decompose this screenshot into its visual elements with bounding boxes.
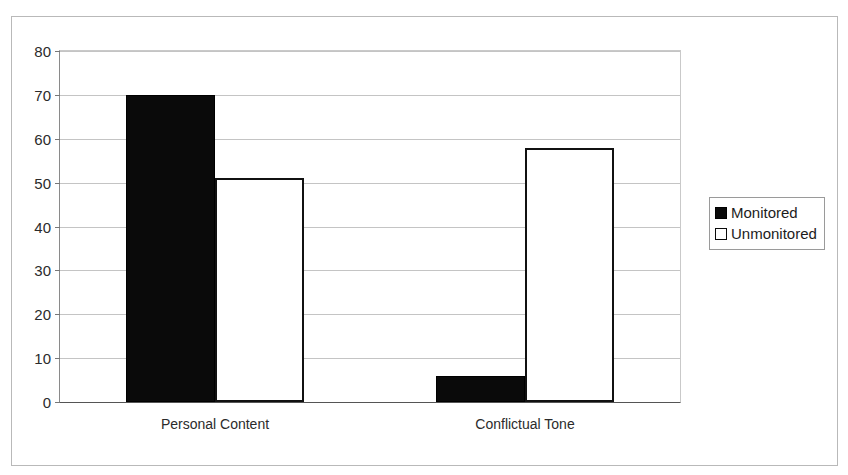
chart-legend: MonitoredUnmonitored bbox=[709, 197, 825, 250]
legend-item-unmonitored: Unmonitored bbox=[715, 223, 817, 244]
y-axis-tick-mark-20 bbox=[55, 314, 60, 315]
y-axis-tick-mark-70 bbox=[55, 95, 60, 96]
y-axis-tick-label-0: 0 bbox=[43, 395, 51, 410]
chart-title-cropped bbox=[0, 0, 848, 15]
gridline-80 bbox=[60, 51, 680, 52]
legend-label-1: Unmonitored bbox=[731, 226, 817, 241]
y-axis-tick-mark-80 bbox=[55, 51, 60, 52]
plot-area: 01020304050607080Personal ContentConflic… bbox=[59, 50, 681, 403]
y-axis-tick-mark-10 bbox=[55, 358, 60, 359]
y-axis-tick-label-70: 70 bbox=[34, 87, 51, 102]
bar-unmonitored-conflictual-tone bbox=[525, 148, 614, 402]
y-axis-tick-label-20: 20 bbox=[34, 307, 51, 322]
bar-monitored-personal-content bbox=[126, 95, 215, 402]
legend-swatch-hollow-icon bbox=[715, 228, 727, 240]
y-axis-tick-mark-0 bbox=[55, 402, 60, 403]
gridline-0 bbox=[60, 402, 680, 403]
y-axis-tick-label-10: 10 bbox=[34, 351, 51, 366]
y-axis-tick-label-80: 80 bbox=[34, 44, 51, 59]
y-axis-tick-mark-60 bbox=[55, 139, 60, 140]
x-axis-category-label-1: Conflictual Tone bbox=[475, 416, 574, 432]
legend-item-monitored: Monitored bbox=[715, 202, 817, 223]
y-axis-tick-label-40: 40 bbox=[34, 219, 51, 234]
bar-monitored-conflictual-tone bbox=[436, 376, 525, 402]
figure-frame: 01020304050607080Personal ContentConflic… bbox=[11, 16, 838, 466]
legend-swatch-filled-icon bbox=[715, 207, 727, 219]
bar-unmonitored-personal-content bbox=[215, 178, 304, 402]
y-axis-tick-label-60: 60 bbox=[34, 131, 51, 146]
chart-canvas: 01020304050607080Personal ContentConflic… bbox=[12, 17, 839, 467]
legend-label-0: Monitored bbox=[731, 205, 798, 220]
y-axis-tick-label-50: 50 bbox=[34, 175, 51, 190]
y-axis-tick-mark-40 bbox=[55, 227, 60, 228]
y-axis-tick-label-30: 30 bbox=[34, 263, 51, 278]
y-axis-tick-mark-30 bbox=[55, 270, 60, 271]
y-axis-tick-mark-50 bbox=[55, 183, 60, 184]
x-axis-category-label-0: Personal Content bbox=[161, 416, 269, 432]
